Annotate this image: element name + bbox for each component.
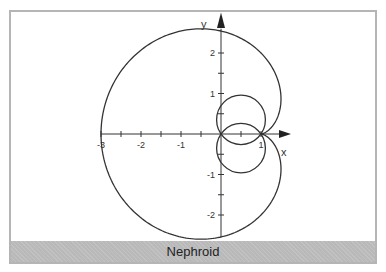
figure-frame: x y -3-2-1121-1-2 Nephroid [9,10,377,264]
curve-inner-loop-upper [217,95,266,144]
x-axis-label: x [281,146,287,158]
figure-caption: Nephroid [11,241,375,262]
plot-area: x y -3-2-1121-1-2 [11,12,375,243]
y-axis-label: y [201,18,207,30]
y-axis-arrow-icon [217,13,225,28]
y-tick-label: -1 [207,170,215,180]
y-tick-label: 2 [210,48,215,58]
x-axis-arrow-icon [279,130,291,138]
x-tick-label: -2 [137,140,145,150]
y-tick-label: 1 [210,89,215,99]
y-tick-label: -2 [207,210,215,220]
x-tick-label: -1 [177,140,185,150]
x-tick-label: 1 [258,140,263,150]
